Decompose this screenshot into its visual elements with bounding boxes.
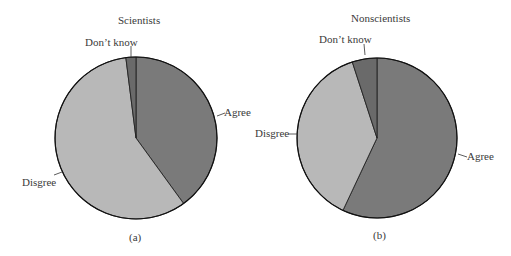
pie-panel-scientists: Scientists Don’t know Agree Disgree (a) bbox=[0, 0, 256, 256]
pie-slices-scientists bbox=[55, 57, 217, 219]
label-agree-nonscientists: Agree bbox=[467, 150, 494, 162]
pie-chart-nonscientists bbox=[255, 0, 511, 256]
pie-panel-nonscientists: Nonscientists Don’t know Agree Disgree (… bbox=[255, 0, 511, 256]
label-disagree-nonscientists: Disgree bbox=[255, 127, 289, 139]
label-dontknow-nonscientists: Don’t know bbox=[319, 33, 372, 45]
label-disagree-scientists: Disgree bbox=[22, 176, 56, 188]
label-dontknow-scientists: Don’t know bbox=[85, 36, 138, 48]
panel-caption-a: (a) bbox=[129, 231, 141, 243]
chart-title-nonscientists: Nonscientists bbox=[351, 12, 410, 24]
label-agree-scientists: Agree bbox=[224, 106, 251, 118]
pie-slices-nonscientists bbox=[297, 58, 457, 218]
chart-title-scientists: Scientists bbox=[118, 14, 160, 26]
panel-caption-b: (b) bbox=[373, 229, 386, 241]
